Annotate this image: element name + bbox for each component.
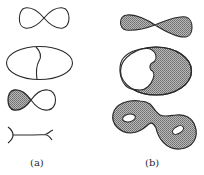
figure-canvas bbox=[0, 0, 204, 175]
figure-eight-curve bbox=[19, 8, 69, 28]
genus-two-surface bbox=[113, 101, 197, 149]
panel-a bbox=[7, 8, 73, 143]
shaded-figure-eight bbox=[121, 15, 193, 37]
unshaded-lobe bbox=[31, 90, 56, 110]
panel-b-label: (b) bbox=[145, 158, 159, 168]
forked-segment bbox=[8, 127, 53, 143]
panel-b bbox=[113, 15, 197, 149]
wavy-divider bbox=[36, 47, 41, 80]
shaded-lobe bbox=[8, 90, 31, 110]
panel-a-label: (a) bbox=[30, 158, 44, 168]
